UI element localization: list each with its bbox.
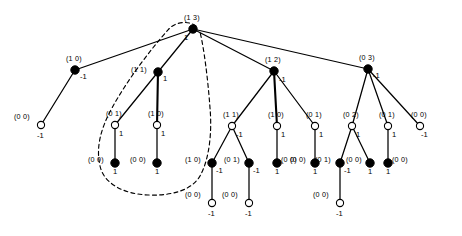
tree-node-filled [208,159,216,167]
tree-node-filled [366,159,374,167]
tree-node-filled [384,159,392,167]
tree-diagram-figure: (1 3)1(1 0)-1(1 1)1(1 2)-1(0 3)-1(0 0)-1… [0,0,462,236]
node-value-label: -1 [336,210,343,218]
node-value-label: -1 [421,131,428,139]
node-pair-label: (1 0) [148,110,164,117]
node-value-label: 1 [275,168,279,176]
tree-node-filled [153,159,161,167]
node-value-label: 1 [163,75,167,83]
tree-node-open [153,121,160,128]
tree-node-open [228,122,235,129]
node-pair-label: (0 0) [290,156,306,163]
node-pair-label: (1 2) [265,56,281,63]
node-pair-label: (0 2) [343,111,359,118]
tree-node-filled [189,25,197,33]
tree-node-open [384,122,391,129]
tree-node-filled [71,66,79,74]
node-pair-label: (0 1) [306,111,322,118]
node-pair-label: (1 0) [268,111,284,118]
node-pair-label: (1 1) [131,66,147,73]
tree-node-open [311,122,318,129]
node-pair-label: (0 1) [315,156,331,163]
tree-node-filled [270,67,278,75]
node-value-label: -1 [80,73,87,81]
tree-node-open [111,121,118,128]
tree-node-open [416,122,423,129]
node-value-label: 1 [281,131,285,139]
tree-node-filled [364,65,372,73]
node-value-label: 1 [155,168,159,176]
node-value-label: 1 [386,168,390,176]
node-value-label: 1 [319,131,323,139]
node-pair-label: (0 0) [411,111,427,118]
node-pair-label: (0 0) [88,156,104,163]
node-pair-label: (0 0) [313,191,329,198]
node-pair-label: (0 1) [106,110,122,117]
node-value-label: 1 [392,131,396,139]
tree-node-filled [245,159,253,167]
node-value-label: -1 [216,167,223,175]
node-pair-label: (1 0) [185,156,201,163]
node-value-label: -1 [208,210,215,218]
tree-node-filled [154,68,162,76]
tree-edge [41,70,75,125]
tree-node-filled [273,159,281,167]
node-pair-label: (0 0) [222,191,238,198]
node-value-label: -1 [236,131,243,139]
node-value-label: -1 [279,76,286,84]
tree-edge [75,29,193,70]
tree-node-filled [336,159,344,167]
node-pair-label: (0 0) [392,156,408,163]
node-pair-label: (1 0) [66,55,82,62]
node-pair-label: (0 3) [359,54,375,61]
tree-node-open [208,199,215,206]
node-pair-label: (0 0) [185,191,201,198]
node-pair-label: (1 3) [184,14,200,21]
node-pair-label: (1 1) [223,111,239,118]
node-value-label: 1 [368,168,372,176]
node-pair-label: (0 0) [14,113,30,120]
node-pair-label: (0 0) [130,156,146,163]
node-pair-label: (0 0) [346,156,362,163]
node-value-label: -1 [253,167,260,175]
tree-node-open [348,122,355,129]
node-value-label: 1 [313,168,317,176]
node-pair-label: (0 1) [224,156,240,163]
node-value-label: -1 [373,72,380,80]
tree-node-open [37,121,44,128]
node-value-label: -1 [344,167,351,175]
tree-node-open [245,199,252,206]
tree-node-open [336,199,343,206]
node-value-label: 1 [119,130,123,138]
node-value-label: -1 [245,210,252,218]
tree-node-filled [111,159,119,167]
node-pair-label: (0 1) [379,111,395,118]
node-value-label: 1 [184,34,188,42]
node-value-label: 1 [113,168,117,176]
node-value-label: 1 [356,131,360,139]
tree-node-open [273,122,280,129]
node-value-label: 1 [161,130,165,138]
node-value-label: -1 [37,132,44,140]
